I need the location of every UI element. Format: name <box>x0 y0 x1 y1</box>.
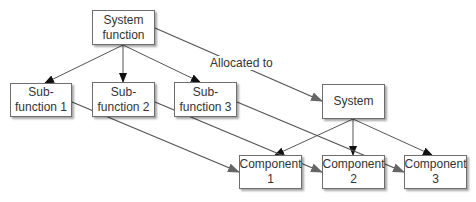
node-system-function: System function <box>92 10 155 45</box>
node-line: function 2 <box>97 100 149 115</box>
edge-sysfunc-sub1 <box>45 45 123 83</box>
node-line: Sub- <box>193 85 218 100</box>
node-line: 1 <box>267 172 274 187</box>
node-component-3: Component 3 <box>404 155 467 189</box>
node-line: function 1 <box>15 100 67 115</box>
edge-sysfunc-sub3 <box>123 45 200 82</box>
node-sub-function-2: Sub- function 2 <box>92 82 155 117</box>
node-line: Component <box>322 157 384 172</box>
node-line: Sub- <box>28 85 53 100</box>
node-line: function 3 <box>179 100 231 115</box>
node-component-1: Component 1 <box>239 155 302 189</box>
edge-system-comp1 <box>275 119 353 155</box>
node-sub-function-1: Sub- function 1 <box>10 83 72 117</box>
node-line: Sub- <box>111 85 136 100</box>
node-line: 2 <box>350 172 357 187</box>
node-line: function <box>102 28 144 43</box>
node-sub-function-3: Sub- function 3 <box>174 82 237 117</box>
node-line: Component <box>404 157 466 172</box>
node-component-2: Component 2 <box>322 155 385 189</box>
node-line: System <box>333 94 373 109</box>
node-system: System <box>322 84 385 119</box>
allocated-to-label: Allocated to <box>210 56 273 70</box>
node-line: Component <box>239 157 301 172</box>
node-line: System <box>103 13 143 28</box>
node-line: 3 <box>432 172 439 187</box>
edge-system-comp3 <box>353 119 432 155</box>
